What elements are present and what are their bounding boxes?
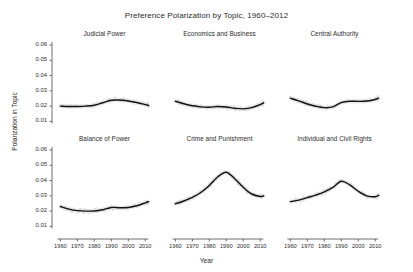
- y-tick-label: 0.03: [21, 87, 47, 93]
- y-tick-label: 0.01: [21, 117, 47, 123]
- chart-title: Preference Polarization by Topic, 1960–2…: [0, 11, 413, 20]
- panel-1: [60, 97, 149, 109]
- y-tick-label: 0.06: [21, 41, 47, 47]
- facet-title-1: Judicial Power: [57, 30, 152, 37]
- panel-4: [60, 200, 149, 215]
- x-axis-label: Year: [0, 257, 413, 264]
- facet-title-5: Crime and Punishment: [172, 135, 267, 142]
- smooth-line-4: [60, 202, 148, 212]
- y-tick-label: 0.05: [21, 56, 47, 62]
- y-tick-label: 0.05: [21, 161, 47, 167]
- y-tick-label: 0.02: [21, 207, 47, 213]
- facet-title-6: Individual and Civil Rights: [287, 135, 382, 142]
- y-tick-label: 0.04: [21, 177, 47, 183]
- facet-title-2: Economics and Business: [172, 30, 267, 37]
- chart-figure: Preference Polarization by Topic, 1960–2…: [0, 0, 413, 272]
- panel-5: [174, 171, 264, 206]
- y-tick-label: 0.01: [21, 222, 47, 228]
- facet-title-3: Central Authority: [287, 30, 382, 37]
- x-tick-label: 2010: [249, 243, 271, 249]
- facet-title-4: Balance of Power: [57, 135, 152, 142]
- y-axis-label: Polarization in Topic: [11, 77, 18, 167]
- x-tick-label: 2010: [134, 243, 156, 249]
- x-tick-label: 2010: [364, 243, 386, 249]
- y-tick-label: 0.03: [21, 192, 47, 198]
- smooth-halo-1: [60, 100, 148, 107]
- y-tick-label: 0.04: [21, 72, 47, 78]
- panel-2: [175, 99, 264, 111]
- y-tick-label: 0.06: [21, 146, 47, 152]
- panel-3: [289, 95, 381, 111]
- y-tick-label: 0.02: [21, 102, 47, 108]
- panel-6: [289, 179, 379, 204]
